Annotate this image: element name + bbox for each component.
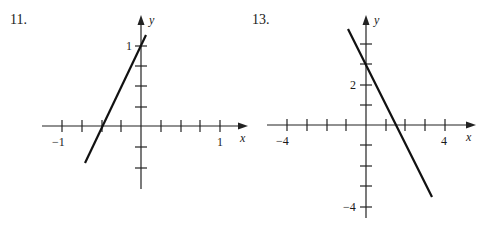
x-axis-arrow-icon xyxy=(466,122,476,129)
y-tick-label-2: 2 xyxy=(350,78,356,92)
x-tick-label-4: 4 xyxy=(441,134,447,148)
y-tick-label-neg4: −4 xyxy=(343,200,356,214)
x-tick-label-neg4: −4 xyxy=(276,134,289,148)
x-axis-label: x xyxy=(465,130,472,144)
graph-13: −4 4 2 −4 x y xyxy=(0,0,488,229)
data-line xyxy=(348,29,432,197)
y-axis-arrow-icon xyxy=(363,15,370,25)
y-axis-label: y xyxy=(373,13,380,27)
